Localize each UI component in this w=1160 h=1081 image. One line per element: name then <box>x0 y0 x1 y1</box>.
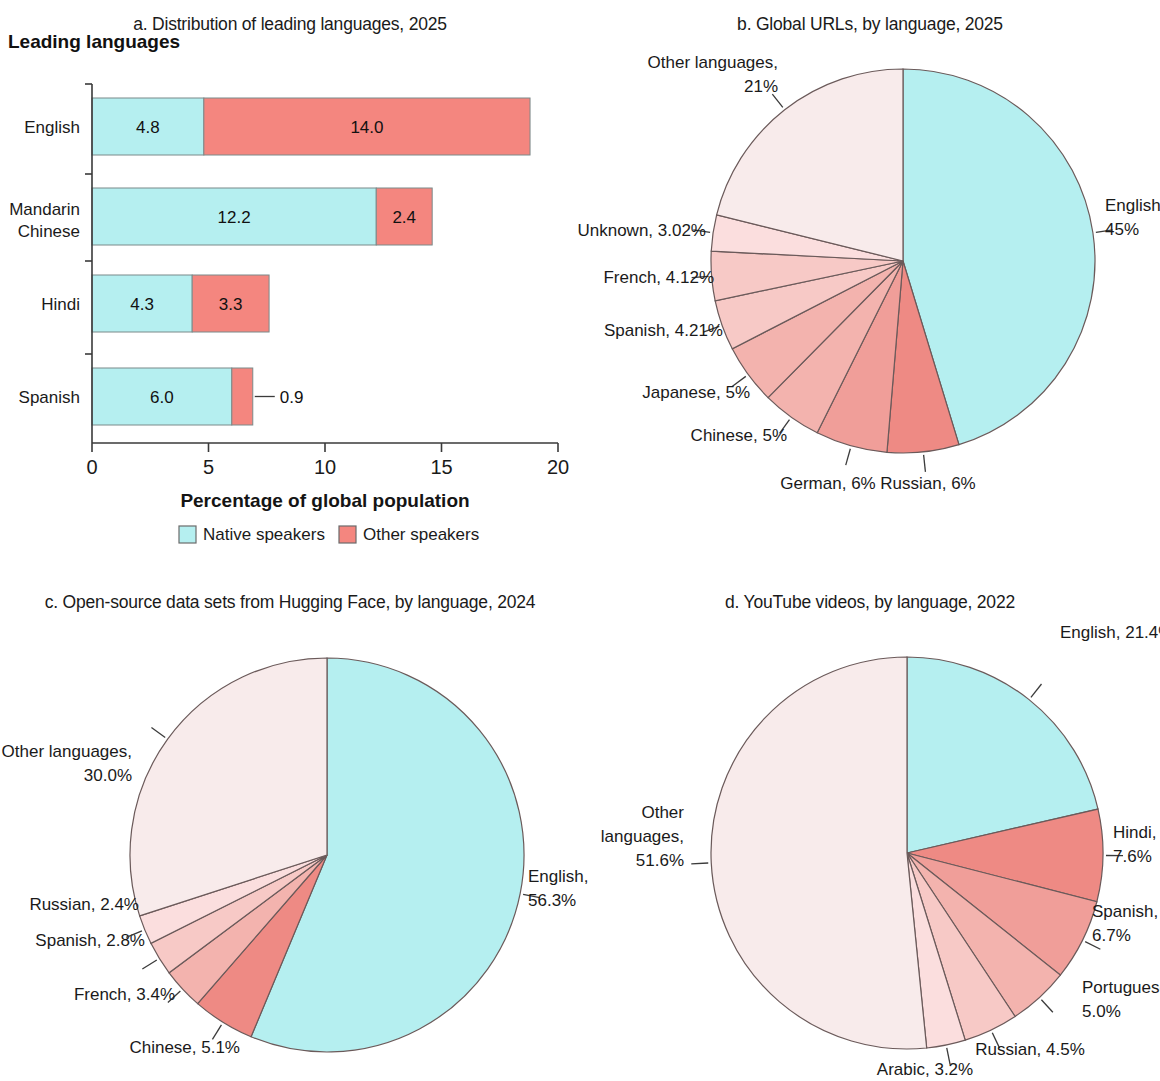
pie-slice-label: Spanish, 2.8% <box>35 931 145 950</box>
pie-slice-label: French, 3.4% <box>74 985 175 1004</box>
pie-slice-label: 30.0% <box>84 766 132 785</box>
pie-slice-label: Spanish, <box>1092 902 1158 921</box>
pie-leader-line <box>1041 1000 1052 1013</box>
pie-slice-label: languages, <box>601 827 684 846</box>
pie-leader-line <box>1031 684 1042 697</box>
pie-slice-label: Russian, 2.4% <box>29 895 139 914</box>
pie-d: English, 21.4%Hindi,7.6%Spanish,6.7%Port… <box>601 623 1160 1079</box>
pie-leader-line <box>691 863 708 864</box>
pie-c: English,56.3%Chinese, 5.1%French, 3.4%Sp… <box>2 658 589 1057</box>
pie-charts-cd-svg: English,56.3%Chinese, 5.1%French, 3.4%Sp… <box>0 0 1160 1081</box>
pie-slice-label: Chinese, 5.1% <box>129 1038 240 1057</box>
pie-slice-label: 56.3% <box>528 891 576 910</box>
pie-slice-label: 5.0% <box>1082 1002 1121 1021</box>
pie-slice-label: Other languages, <box>2 742 132 761</box>
pie-slice-label: Other <box>641 803 684 822</box>
pie-slice-label: Arabic, 3.2% <box>877 1060 973 1079</box>
pie-slice-label: 6.7% <box>1092 926 1131 945</box>
pie-slice-label: English, <box>528 867 588 886</box>
pie-leader-line <box>142 960 156 969</box>
pie-slice-label: Hindi, <box>1113 823 1156 842</box>
pie-slice <box>711 657 927 1049</box>
pie-leader-line <box>151 727 165 737</box>
pie-slice-label: Portuguese, <box>1082 978 1160 997</box>
pie-slice-label: 51.6% <box>636 851 684 870</box>
pie-slice-label: Russian, 4.5% <box>975 1040 1085 1059</box>
pie-slice-label: English, 21.4% <box>1060 623 1160 642</box>
pie-slice-label: 7.6% <box>1113 847 1152 866</box>
